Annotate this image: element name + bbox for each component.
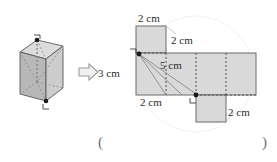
net-face-top xyxy=(136,26,166,53)
answer-open-paren: ( xyxy=(98,134,103,151)
geometry-figure xyxy=(0,0,277,162)
net-face-bottom xyxy=(196,95,226,122)
figure-stage: 2 cm 2 cm 5 cm 3 cm 2 cm 2 cm ( ) xyxy=(0,0,277,162)
net-top-right-angle-icon xyxy=(130,49,136,53)
net-bottom-right-angle-icon xyxy=(190,98,196,103)
net-start-vertex-dot xyxy=(137,52,142,57)
label-left-height: 3 cm xyxy=(98,67,120,79)
label-top-width: 2 cm xyxy=(138,12,160,24)
answer-close-paren: ) xyxy=(262,134,267,151)
label-top-right-height: 2 cm xyxy=(171,34,193,46)
rectangular-prism-solid xyxy=(20,35,63,109)
label-diagonal: 5 cm xyxy=(160,59,182,71)
net-end-vertex-dot xyxy=(194,93,199,98)
label-lower-right-height: 2 cm xyxy=(228,106,250,118)
prism-bottom-right-angle-icon xyxy=(43,104,49,109)
prism-bottom-vertex-dot xyxy=(44,99,49,104)
label-bottom-width: 2 cm xyxy=(140,96,162,108)
implies-arrow-icon xyxy=(79,64,98,80)
prism-top-vertex-dot xyxy=(35,38,40,43)
